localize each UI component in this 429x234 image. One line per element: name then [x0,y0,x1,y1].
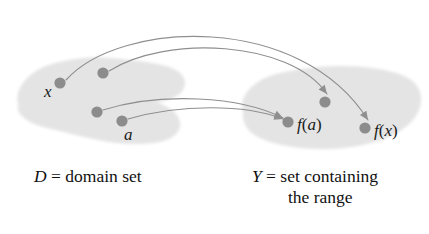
range-symbol: Y [252,166,262,186]
range-caption-line-one: set containing [280,166,378,186]
domain-point-x [54,77,65,88]
range-set-caption: Y = set containing the range [252,166,378,207]
domain-label-x: x [43,82,52,101]
range-caption-line-two: the range [252,187,378,208]
domain-equals: = [47,166,66,186]
range-point-fa [282,116,293,127]
range-point-fp2 [319,96,330,107]
domain-point-p2 [97,67,108,78]
range-equals: = [262,166,281,186]
range-label-fx: f(x) [374,121,398,140]
domain-label-a: a [124,125,133,144]
domain-point-p3 [91,106,102,117]
domain-caption-words: domain set [65,166,141,186]
domain-set-caption: D = domain set [34,166,142,187]
function-mapping-diagram: xaf(a)f(x) D = domain set Y = set contai… [0,0,429,234]
range-point-fx [359,122,370,133]
domain-symbol: D [34,166,47,186]
range-label-fa: f(a) [297,115,322,134]
blob-layer [17,57,421,149]
